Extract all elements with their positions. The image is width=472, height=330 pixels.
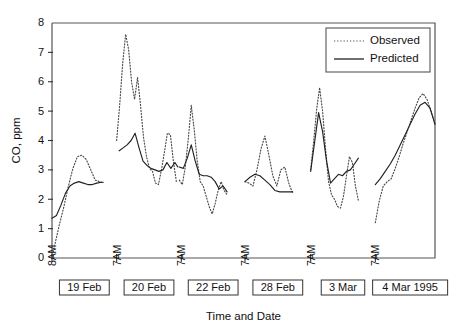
series-predicted-segment-1 (119, 133, 178, 171)
series-observed-segment-4 (311, 88, 359, 208)
series-observed-segment-0 (52, 155, 103, 258)
legend-label-observed: Observed (370, 34, 420, 46)
date-box-label-2: 22 Feb (196, 281, 230, 293)
y-tick-label-5: 5 (38, 105, 44, 117)
x-tick-label-8AM: 8AM (46, 245, 58, 266)
y-tick-label-7: 7 (38, 46, 44, 58)
x-tick-label-7AM: 7AM (239, 245, 251, 266)
y-tick-label-6: 6 (38, 75, 44, 87)
series-predicted-segment-4 (311, 113, 359, 184)
x-tick-label-7AM: 7AM (369, 245, 381, 266)
y-tick-label-8: 8 (38, 16, 44, 28)
y-tick-label-3: 3 (38, 163, 44, 175)
series-predicted-segment-2 (179, 145, 227, 192)
x-tick-label-7AM: 7AM (305, 245, 317, 266)
co-timeseries-chart: 0123456788AM7AM7AM7AM7AM7AM19 Feb20 Feb2… (0, 0, 472, 330)
date-box-label-5: 4 Mar 1995 (382, 281, 438, 293)
y-tick-label-4: 4 (38, 134, 44, 146)
date-box-label-1: 20 Feb (132, 281, 166, 293)
y-tick-label-2: 2 (38, 193, 44, 205)
series-observed-segment-5 (375, 94, 435, 223)
series-predicted-segment-0 (52, 182, 103, 219)
series-predicted-segment-3 (245, 174, 293, 192)
series-observed-segment-3 (245, 136, 293, 193)
date-box-label-4: 3 Mar (329, 281, 357, 293)
x-tick-label-7AM: 7AM (175, 245, 187, 266)
date-box-label-0: 19 Feb (67, 281, 101, 293)
y-axis-title: CO, ppm (10, 117, 22, 163)
x-tick-label-7AM: 7AM (111, 245, 123, 266)
x-axis-title: Time and Date (206, 310, 281, 322)
series-observed-segment-1 (117, 34, 177, 184)
date-box-label-3: 28 Feb (261, 281, 295, 293)
chart-figure: 0123456788AM7AM7AM7AM7AM7AM19 Feb20 Feb2… (0, 0, 472, 330)
y-tick-label-1: 1 (38, 222, 44, 234)
y-tick-label-0: 0 (38, 251, 44, 263)
legend-label-predicted: Predicted (370, 52, 419, 64)
series-predicted-segment-5 (375, 102, 435, 184)
